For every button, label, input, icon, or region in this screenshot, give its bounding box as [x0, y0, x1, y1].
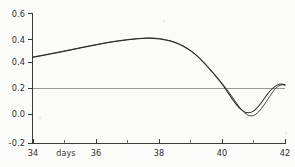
x-tick-label: 40: [217, 148, 228, 158]
scan-speck: [39, 117, 41, 119]
scan-speck: [163, 20, 165, 22]
scan-speck: [246, 117, 248, 119]
y-tick-label: 0.6: [12, 9, 25, 19]
x-tick-label: 42: [280, 148, 291, 158]
scan-speck: [8, 8, 9, 9]
y-tick-label: -0.2: [9, 138, 25, 148]
y-tick-label-0-4: 0.4: [12, 35, 25, 45]
x-tick-label: 38: [154, 148, 165, 158]
chart-figure: 0.6 0.4 0.2 0.0 -0.2 0.4 34 36 38 40 42 …: [0, 0, 295, 167]
y-tick-label: 0.0: [12, 109, 25, 119]
x-axis-label: days: [56, 149, 75, 158]
y-tick-label: 0.2: [12, 83, 25, 93]
y-tick-label: 0.4: [12, 57, 25, 67]
x-tick-label: 34: [28, 148, 39, 158]
y-axis-ticks: [28, 14, 33, 143]
y-tick-labels: 0.6 0.4 0.2 0.0 -0.2: [9, 9, 25, 148]
x-tick-label: 36: [91, 148, 102, 158]
line-chart-canvas: 0.6 0.4 0.2 0.0 -0.2 0.4 34 36 38 40 42 …: [0, 0, 295, 167]
x-axis-ticks: [33, 139, 285, 144]
data-curve-1: [33, 38, 285, 113]
scan-speck: [285, 132, 287, 134]
